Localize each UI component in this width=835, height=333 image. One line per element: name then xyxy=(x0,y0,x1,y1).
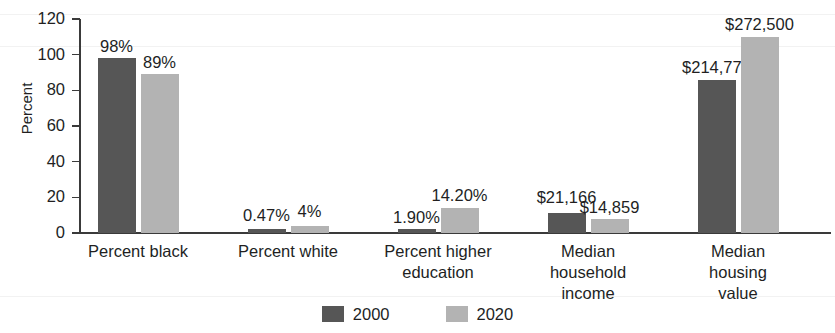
bar-value-label: 89% xyxy=(100,54,220,71)
bar-2000-2 xyxy=(398,229,436,233)
y-axis-tick xyxy=(72,18,80,20)
x-axis-label-2: Percent higher education xyxy=(358,241,518,283)
bar-2000-1 xyxy=(248,229,286,233)
light-gray-swatch-icon xyxy=(446,306,468,322)
y-axis-tick-label: 60 xyxy=(5,117,65,134)
bar-2000-3 xyxy=(548,213,586,233)
bar-2000-4 xyxy=(698,80,736,233)
scan-artifact xyxy=(0,14,835,15)
chart-legend: 2000 2020 xyxy=(0,306,835,323)
bar-2020-2 xyxy=(441,208,479,233)
bar-value-label: 14.20% xyxy=(400,187,520,204)
y-axis-tick xyxy=(72,125,80,127)
y-axis-title: Percent xyxy=(18,49,35,169)
y-axis-tick-label: 80 xyxy=(5,81,65,98)
legend-label-2020: 2020 xyxy=(477,306,514,323)
y-axis-tick xyxy=(72,90,80,92)
y-axis-tick-label: 120 xyxy=(5,10,65,27)
legend-item-2000[interactable]: 2000 xyxy=(322,306,390,323)
bar-2020-1 xyxy=(291,226,329,233)
bar-value-label: 98% xyxy=(57,38,177,55)
bar-2020-0 xyxy=(141,74,179,233)
y-axis-tick-label: 0 xyxy=(5,224,65,241)
legend-label-2000: 2000 xyxy=(353,306,390,323)
bar-value-label: $14,859 xyxy=(550,199,670,216)
x-axis-label-1: Percent white xyxy=(208,241,368,262)
y-axis-tick xyxy=(72,197,80,199)
bar-2000-0 xyxy=(98,58,136,233)
bar-value-label: $272,500 xyxy=(700,16,820,33)
y-axis-tick-label: 20 xyxy=(5,188,65,205)
y-axis-tick-label: 40 xyxy=(5,153,65,170)
x-axis-label-0: Percent black xyxy=(58,241,218,262)
bar-value-label: 4% xyxy=(250,203,370,220)
legend-item-2020[interactable]: 2020 xyxy=(446,306,514,323)
x-axis-label-4: Median housing value xyxy=(658,241,818,304)
dark-gray-swatch-icon xyxy=(322,306,344,322)
bar-chart: Percent 020406080100120 98%89%0.47%4%1.9… xyxy=(0,0,835,333)
y-axis-tick xyxy=(72,161,80,163)
bar-2020-3 xyxy=(591,219,629,233)
plot-area: 98%89%0.47%4%1.90%14.20%$21,166$14,859$2… xyxy=(80,19,830,233)
bar-2020-4 xyxy=(741,37,779,233)
x-axis-label-3: Median household income xyxy=(508,241,668,304)
